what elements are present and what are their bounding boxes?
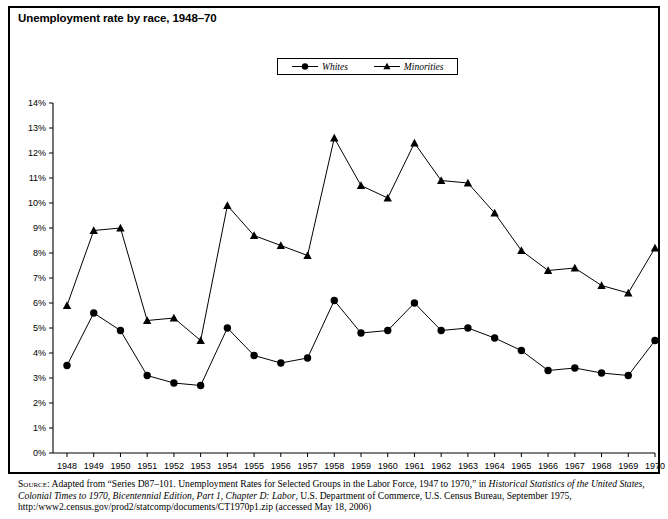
data-point-circle <box>598 369 605 376</box>
data-point-triangle <box>223 201 231 209</box>
x-axis: 1948194919501951195219531954195519561957… <box>53 453 665 471</box>
data-point-triangle <box>651 244 659 252</box>
y-axis-tick-label: 0% <box>33 448 46 458</box>
data-point-circle <box>491 334 498 341</box>
x-axis-tick-label: 1969 <box>618 461 638 471</box>
data-point-triangle <box>63 301 71 309</box>
data-point-circle <box>304 354 311 361</box>
source-kicker: Source: <box>18 478 50 489</box>
x-axis-tick-label: 1970 <box>645 461 665 471</box>
data-point-circle <box>518 347 525 354</box>
data-point-circle <box>197 382 204 389</box>
data-point-circle <box>625 372 632 379</box>
x-axis-tick-label: 1967 <box>565 461 585 471</box>
source-text-part1: Adapted from “Series D87–101. Unemployme… <box>50 478 489 489</box>
data-point-circle <box>63 362 70 369</box>
data-point-circle <box>384 327 391 334</box>
data-point-triangle <box>571 264 579 272</box>
y-axis: 0%1%2%3%4%5%6%7%8%9%10%11%12%13%14% <box>28 98 53 458</box>
x-axis-tick-label: 1962 <box>431 461 451 471</box>
figure-unemployment-by-race: Unemployment rate by race, 1948–70 White… <box>0 0 668 519</box>
series-minorities <box>63 134 659 344</box>
data-series-group <box>63 134 659 389</box>
x-axis-tick-label: 1950 <box>110 461 130 471</box>
x-axis-tick-label: 1955 <box>244 461 264 471</box>
x-axis-tick-label: 1949 <box>84 461 104 471</box>
x-axis-tick-label: 1948 <box>57 461 77 471</box>
x-axis-tick-label: 1966 <box>538 461 558 471</box>
data-point-circle <box>331 297 338 304</box>
data-point-circle <box>357 329 364 336</box>
data-point-triangle <box>277 241 285 249</box>
y-axis-tick-label: 4% <box>33 348 46 358</box>
data-point-circle <box>90 309 97 316</box>
x-axis-tick-label: 1956 <box>271 461 291 471</box>
y-axis-tick-label: 5% <box>33 323 46 333</box>
data-point-triangle <box>116 224 124 232</box>
x-axis-tick-label: 1965 <box>511 461 531 471</box>
data-point-circle <box>544 367 551 374</box>
y-axis-tick-label: 9% <box>33 223 46 233</box>
y-axis-tick-label: 8% <box>33 248 46 258</box>
y-axis-tick-label: 14% <box>28 98 46 108</box>
data-point-triangle <box>597 281 605 289</box>
data-point-triangle <box>170 314 178 322</box>
data-point-circle <box>571 364 578 371</box>
x-axis-tick-label: 1952 <box>164 461 184 471</box>
data-point-triangle <box>330 134 338 142</box>
data-point-triangle <box>437 176 445 184</box>
data-point-circle <box>117 327 124 334</box>
source-note: Source: Adapted from “Series D87–101. Un… <box>18 478 654 513</box>
data-point-circle <box>277 359 284 366</box>
data-point-circle <box>170 379 177 386</box>
x-axis-tick-label: 1961 <box>404 461 424 471</box>
line-chart-svg: 0%1%2%3%4%5%6%7%8%9%10%11%12%13%14% 1948… <box>0 0 668 480</box>
y-axis-tick-label: 3% <box>33 373 46 383</box>
data-point-circle <box>651 337 658 344</box>
x-axis-tick-label: 1963 <box>458 461 478 471</box>
x-axis-tick-label: 1964 <box>485 461 505 471</box>
data-point-triangle <box>517 246 525 254</box>
data-point-circle <box>224 324 231 331</box>
x-axis-tick-label: 1951 <box>137 461 157 471</box>
data-point-triangle <box>303 251 311 259</box>
data-point-triangle <box>410 139 418 147</box>
y-axis-tick-label: 12% <box>28 148 46 158</box>
data-point-circle <box>464 324 471 331</box>
x-axis-tick-label: 1959 <box>351 461 371 471</box>
chart-plot-area: 0%1%2%3%4%5%6%7%8%9%10%11%12%13%14% 1948… <box>0 0 668 480</box>
series-whites <box>63 297 658 389</box>
y-axis-tick-label: 6% <box>33 298 46 308</box>
y-axis-tick-label: 11% <box>29 173 46 183</box>
y-axis-tick-label: 2% <box>33 398 46 408</box>
data-point-circle <box>143 372 150 379</box>
x-axis-tick-label: 1957 <box>298 461 318 471</box>
x-axis-tick-label: 1968 <box>592 461 612 471</box>
x-axis-tick-label: 1958 <box>324 461 344 471</box>
data-point-circle <box>411 299 418 306</box>
data-point-triangle <box>384 194 392 202</box>
y-axis-tick-label: 10% <box>28 198 46 208</box>
data-point-circle <box>250 352 257 359</box>
y-axis-tick-label: 7% <box>33 273 46 283</box>
data-point-circle <box>437 327 444 334</box>
y-axis-tick-label: 13% <box>28 123 46 133</box>
x-axis-tick-label: 1953 <box>191 461 211 471</box>
x-axis-tick-label: 1960 <box>378 461 398 471</box>
y-axis-tick-label: 1% <box>33 423 46 433</box>
data-point-triangle <box>357 181 365 189</box>
x-axis-tick-label: 1954 <box>217 461 237 471</box>
